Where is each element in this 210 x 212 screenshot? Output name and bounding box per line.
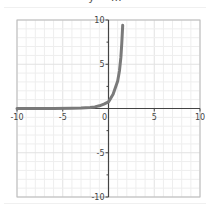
x-tick-label: -10: [10, 113, 23, 122]
x-tick-label: 0: [102, 113, 107, 122]
y-tick-label: 5: [99, 60, 104, 69]
bottom-divider: [4, 203, 206, 204]
y-tick-label: -5: [97, 149, 105, 158]
x-tick-label: 5: [152, 113, 157, 122]
x-tick-label: -5: [59, 113, 67, 122]
x-tick-label: 10: [195, 113, 205, 122]
y-tick-label: 10: [94, 16, 104, 25]
chart-plot: -10-50510-10-5510: [0, 0, 210, 212]
y-tick-label: -10: [91, 193, 104, 202]
